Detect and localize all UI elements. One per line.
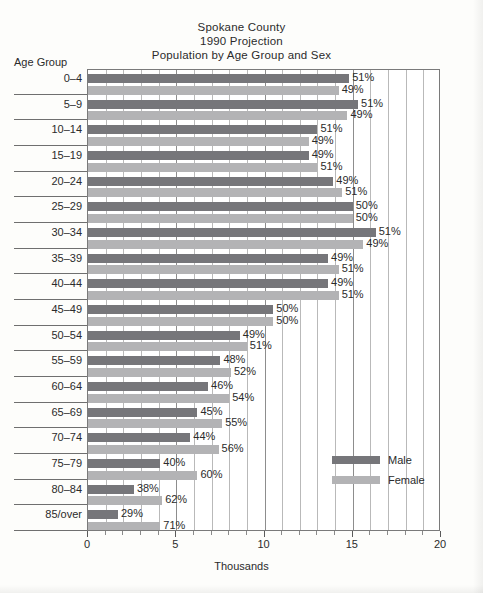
percent-label-male: 49% bbox=[312, 148, 334, 160]
axis-label-age-group: Age Group bbox=[14, 56, 88, 68]
bar-male bbox=[88, 177, 333, 186]
bar-female bbox=[88, 265, 339, 274]
legend-item-female: Female bbox=[332, 472, 425, 487]
age-group-label: 70–74 bbox=[14, 428, 87, 454]
bar-male bbox=[88, 305, 273, 314]
bar-female bbox=[88, 291, 339, 300]
age-group-label-text: 0–4 bbox=[14, 72, 82, 84]
bar-male bbox=[88, 433, 190, 442]
x-tick-minor bbox=[193, 531, 194, 535]
bar-male bbox=[88, 279, 328, 288]
x-tick-minor bbox=[140, 531, 141, 535]
age-group-label-text: 55–59 bbox=[14, 354, 82, 366]
x-tick-minor bbox=[158, 531, 159, 535]
age-group-label-text: 80–84 bbox=[14, 483, 82, 495]
age-group-label-text: 20–24 bbox=[14, 175, 82, 187]
x-tick-minor bbox=[387, 531, 388, 535]
bar-female bbox=[88, 394, 229, 403]
x-tick-minor bbox=[422, 531, 423, 535]
bar-male bbox=[88, 228, 376, 237]
bar-female bbox=[88, 471, 197, 480]
bar-female bbox=[88, 368, 231, 377]
percent-label-female: 49% bbox=[366, 237, 388, 249]
age-group-label: 60–64 bbox=[14, 377, 87, 403]
age-group-label: 75–79 bbox=[14, 454, 87, 480]
age-group-label: 20–24 bbox=[14, 172, 87, 198]
percent-label-male: 49% bbox=[331, 251, 353, 263]
x-tick-major bbox=[440, 531, 441, 537]
x-tick-label: 20 bbox=[434, 538, 446, 550]
age-group-label: 65–69 bbox=[14, 403, 87, 429]
x-tick-minor bbox=[316, 531, 317, 535]
chart-subtitle: 1990 Projection bbox=[0, 34, 483, 48]
percent-label-female: 62% bbox=[165, 493, 187, 505]
bar-male bbox=[88, 100, 358, 109]
percent-label-male: 48% bbox=[223, 353, 245, 365]
percent-label-female: 50% bbox=[276, 314, 298, 326]
bar-female bbox=[88, 445, 219, 454]
bar-male bbox=[88, 254, 328, 263]
bar-female bbox=[88, 240, 363, 249]
legend-label-female: Female bbox=[388, 474, 425, 486]
age-group-label: 55–59 bbox=[14, 351, 87, 377]
age-group-label-text: 50–54 bbox=[14, 329, 82, 341]
percent-label-female: 49% bbox=[312, 134, 334, 146]
percent-label-male: 49% bbox=[243, 328, 265, 340]
x-tick-major bbox=[87, 531, 88, 537]
bar-female bbox=[88, 419, 222, 428]
bar-female bbox=[88, 163, 317, 172]
age-group-label-text: 40–44 bbox=[14, 277, 82, 289]
x-tick-minor bbox=[405, 531, 406, 535]
percent-label-female: 51% bbox=[342, 288, 364, 300]
x-tick-label: 5 bbox=[172, 538, 178, 550]
bar-male bbox=[88, 408, 197, 417]
bar-male bbox=[88, 510, 118, 519]
percent-label-female: 51% bbox=[342, 262, 364, 274]
age-group-label-text: 25–29 bbox=[14, 200, 82, 212]
age-group-label: 5–9 bbox=[14, 95, 87, 121]
bar-female bbox=[88, 342, 247, 351]
age-group-label: 15–19 bbox=[14, 146, 87, 172]
age-group-label-text: 45–49 bbox=[14, 303, 82, 315]
bar-male bbox=[88, 382, 208, 391]
x-tick-major bbox=[352, 531, 353, 537]
percent-label-female: 60% bbox=[200, 468, 222, 480]
age-group-label-text: 60–64 bbox=[14, 380, 82, 392]
bar-female bbox=[88, 214, 353, 223]
x-tick-major bbox=[175, 531, 176, 537]
percent-label-male: 51% bbox=[352, 71, 374, 83]
x-tick-label: 10 bbox=[257, 538, 269, 550]
chart-title: Spokane County bbox=[0, 20, 483, 34]
age-group-label: 25–29 bbox=[14, 197, 87, 223]
age-group-label: 85/over bbox=[14, 505, 87, 531]
age-group-label-text: 15–19 bbox=[14, 149, 82, 161]
percent-label-male: 51% bbox=[320, 122, 342, 134]
percent-label-male: 38% bbox=[137, 482, 159, 494]
x-tick-minor bbox=[299, 531, 300, 535]
age-group-label: 0–4 bbox=[14, 69, 87, 95]
age-group-label: 45–49 bbox=[14, 300, 87, 326]
percent-label-female: 50% bbox=[356, 211, 378, 223]
percent-label-female: 49% bbox=[350, 108, 372, 120]
bar-male bbox=[88, 331, 240, 340]
percent-label-male: 46% bbox=[211, 379, 233, 391]
percent-label-male: 29% bbox=[121, 507, 143, 519]
percent-label-male: 51% bbox=[379, 225, 401, 237]
percent-label-male: 40% bbox=[163, 456, 185, 468]
age-group-label: 40–44 bbox=[14, 274, 87, 300]
x-tick-label: 15 bbox=[346, 538, 358, 550]
x-tick-minor bbox=[228, 531, 229, 535]
axis-label-thousands: Thousands bbox=[0, 560, 483, 572]
age-group-label: 80–84 bbox=[14, 480, 87, 506]
percent-label-female: 52% bbox=[234, 365, 256, 377]
percent-label-male: 49% bbox=[331, 276, 353, 288]
age-group-label-text: 85/over bbox=[14, 508, 82, 520]
percent-label-female: 49% bbox=[342, 83, 364, 95]
legend-item-male: Male bbox=[332, 452, 425, 467]
age-group-label: 35–39 bbox=[14, 249, 87, 275]
age-group-label-text: 30–34 bbox=[14, 226, 82, 238]
chart-legend: Male Female bbox=[332, 452, 425, 492]
x-tick-minor bbox=[246, 531, 247, 535]
bar-female bbox=[88, 317, 273, 326]
x-tick-label: 0 bbox=[84, 538, 90, 550]
